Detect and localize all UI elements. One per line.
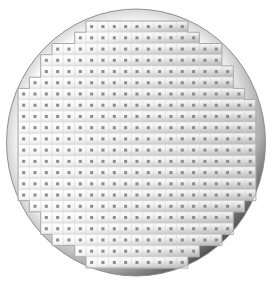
die-marker: [90, 92, 93, 95]
die-marker: [135, 160, 138, 163]
die-marker: [79, 59, 82, 62]
die-marker: [124, 104, 127, 107]
die-marker: [203, 115, 206, 118]
die-marker: [181, 171, 184, 174]
die-marker: [56, 216, 59, 219]
die-marker: [181, 81, 184, 84]
die-marker: [158, 36, 161, 39]
die-marker: [169, 25, 172, 28]
die-marker: [135, 194, 138, 197]
die-marker: [226, 126, 229, 129]
die-marker: [203, 194, 206, 197]
die-marker: [226, 92, 229, 95]
die-marker: [169, 36, 172, 39]
die-marker: [45, 126, 48, 129]
die-marker: [79, 48, 82, 51]
die-marker: [203, 48, 206, 51]
die-marker: [181, 160, 184, 163]
die-marker: [158, 104, 161, 107]
die-marker: [237, 126, 240, 129]
die-marker: [124, 194, 127, 197]
die-marker: [56, 227, 59, 230]
die-marker: [181, 250, 184, 253]
die-marker: [215, 238, 218, 241]
die-marker: [56, 48, 59, 51]
die-marker: [135, 238, 138, 241]
die-marker: [192, 48, 195, 51]
die-marker: [181, 182, 184, 185]
die-marker: [124, 205, 127, 208]
die-marker: [215, 48, 218, 51]
die-marker: [237, 194, 240, 197]
die-marker: [56, 238, 59, 241]
die-marker: [181, 261, 184, 264]
die-marker: [79, 194, 82, 197]
die-marker: [79, 81, 82, 84]
die-marker: [101, 104, 104, 107]
die-marker: [124, 160, 127, 163]
die-marker: [203, 160, 206, 163]
die-marker: [79, 250, 82, 253]
die-marker: [101, 182, 104, 185]
die-marker: [192, 36, 195, 39]
die-marker: [90, 104, 93, 107]
die-marker: [215, 227, 218, 230]
die-marker: [79, 216, 82, 219]
die-marker: [101, 48, 104, 51]
die-marker: [181, 25, 184, 28]
die-marker: [169, 227, 172, 230]
die-marker: [90, 216, 93, 219]
die-marker: [249, 126, 252, 129]
die-marker: [113, 171, 116, 174]
die-marker: [113, 92, 116, 95]
die-marker: [192, 70, 195, 73]
die-marker: [249, 149, 252, 152]
die-marker: [79, 171, 82, 174]
die-marker: [113, 48, 116, 51]
die-marker: [135, 205, 138, 208]
die-marker: [113, 36, 116, 39]
die-marker: [22, 160, 25, 163]
die-marker: [169, 216, 172, 219]
die-marker: [147, 227, 150, 230]
wafer-map: [0, 0, 272, 283]
die-marker: [79, 36, 82, 39]
die-grid: [18, 21, 256, 268]
die-marker: [169, 81, 172, 84]
die-marker: [45, 81, 48, 84]
die-marker: [79, 126, 82, 129]
die-marker: [113, 261, 116, 264]
die-marker: [67, 182, 70, 185]
die-marker: [67, 216, 70, 219]
die-marker: [147, 115, 150, 118]
die-marker: [90, 126, 93, 129]
die-marker: [249, 171, 252, 174]
die-marker: [67, 126, 70, 129]
die-marker: [22, 149, 25, 152]
die-marker: [33, 171, 36, 174]
die-marker: [226, 137, 229, 140]
die-marker: [135, 115, 138, 118]
die-marker: [45, 70, 48, 73]
die-marker: [192, 59, 195, 62]
die-marker: [67, 81, 70, 84]
die-marker: [101, 227, 104, 230]
die-marker: [101, 59, 104, 62]
die-marker: [203, 216, 206, 219]
die-marker: [192, 115, 195, 118]
die-marker: [192, 171, 195, 174]
die-marker: [135, 227, 138, 230]
die-marker: [33, 104, 36, 107]
die-marker: [226, 216, 229, 219]
die-marker: [158, 250, 161, 253]
die-marker: [135, 81, 138, 84]
die-marker: [215, 149, 218, 152]
die-marker: [147, 126, 150, 129]
die-marker: [90, 182, 93, 185]
die-marker: [67, 48, 70, 51]
die-marker: [90, 115, 93, 118]
die-marker: [113, 104, 116, 107]
die-marker: [215, 92, 218, 95]
die-marker: [226, 171, 229, 174]
die-marker: [181, 92, 184, 95]
